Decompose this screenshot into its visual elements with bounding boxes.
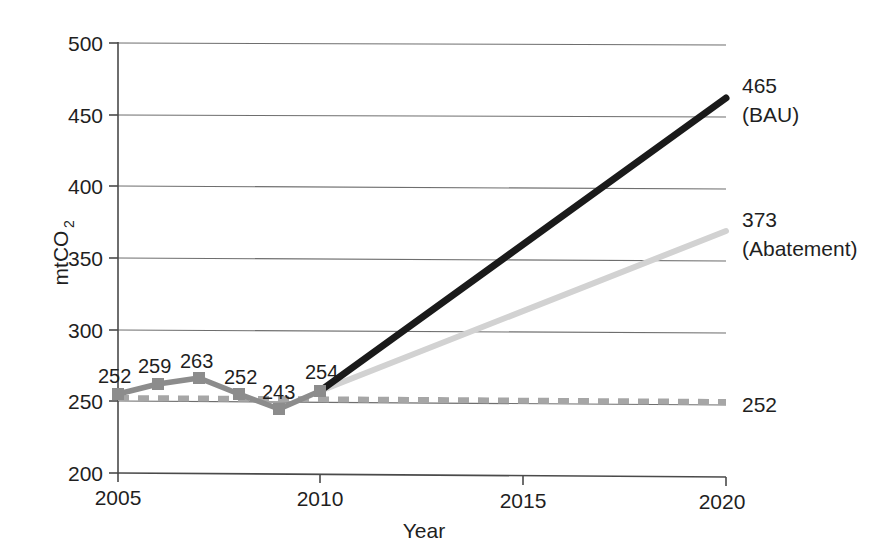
data-label-2005: 252 [98,365,131,387]
end-label-abatement-value: 373 [742,208,777,231]
data-point-2008 [233,388,245,400]
data-point-2007 [193,372,205,384]
y-tick-label-200: 200 [68,462,103,485]
x-tick-label-2010: 2010 [297,487,344,510]
x-axis-title: Year [403,519,445,542]
data-point-2005 [112,388,124,400]
y-tick-label-450: 450 [68,104,103,127]
y-tick-label-250: 250 [68,390,103,413]
end-label-bau-value: 465 [742,74,777,97]
data-point-2010 [314,385,326,397]
chart-svg: 500 450 400 350 300 250 200 2005 2010 20… [0,0,894,548]
data-point-2009 [273,403,285,415]
x-tick-label-2005: 2005 [95,486,142,509]
data-label-2007: 263 [180,350,213,372]
y-tick-label-500: 500 [68,32,103,55]
y-axis-title-base: mtCO [49,231,72,286]
data-label-2008: 252 [224,366,257,388]
data-label-2006: 259 [138,355,171,377]
y-axis-title-subscript: 2 [61,220,77,228]
data-point-2006 [152,378,164,390]
x-tick-label-2015: 2015 [500,489,547,512]
end-label-flat-value: 252 [742,393,777,416]
end-label-abatement-note: (Abatement) [742,237,858,260]
y-tick-label-350: 350 [68,247,103,270]
y-tick-label-300: 300 [68,319,103,342]
data-label-2009: 243 [262,381,295,403]
emissions-projection-chart: 500 450 400 350 300 250 200 2005 2010 20… [0,0,894,548]
y-tick-label-400: 400 [68,175,103,198]
end-label-bau-note: (BAU) [742,103,799,126]
x-tick-label-2020: 2020 [699,490,746,513]
data-label-2010: 254 [305,361,338,383]
